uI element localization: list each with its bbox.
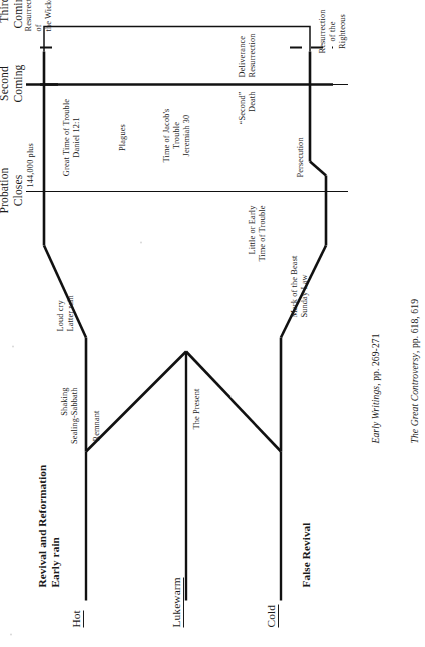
citations: Early Writings, pp. 269-271 The Great Co… (344, 143, 425, 443)
label-lukewarm: Lukewarm (170, 577, 184, 627)
label-persecution: Persecution (296, 87, 306, 177)
label-shaking-sealing-sabbath: ShakingSealing-Sabbath (60, 387, 80, 511)
header-probation-closes: ProbationCloses (0, 147, 25, 233)
label-resurrection-of-the-righteous: Resurrectionof theRighteous (318, 0, 348, 79)
citation-line-2: The Great Controversy, pp. 618, 619 (409, 143, 422, 443)
label-plagues: Plagues (118, 97, 128, 177)
label-remnant: Remnant (92, 371, 102, 441)
label-cold: Cold (265, 604, 279, 627)
header-third-coming: ThirdComing (0, 0, 25, 47)
label-resurrection-of-the-wicked: Resurrectionofthe Wicked (24, 0, 54, 31)
third-coming-bracket-path (44, 26, 310, 51)
citation-1-pages: , pp. 269-271 (370, 333, 381, 385)
label-the-present: The Present (192, 349, 202, 429)
scan-speck (12, 345, 14, 347)
header-second-coming: SecondComing (0, 43, 25, 123)
scan-speck (10, 633, 12, 635)
citation-2-pages: , pp. 618, 619 (409, 298, 420, 352)
citation-1-title: Early Writings (370, 385, 381, 443)
citation-2-title: The Great Controversy (409, 353, 420, 443)
scan-speck (140, 241, 142, 243)
title-revival-and-reformation: Revival and ReformationEarly rain (36, 367, 63, 587)
title-false-revival: False Revival (300, 447, 313, 587)
label-deliverance-resurrection: DeliveranceResurrection (238, 0, 258, 77)
label-little-or-early-time-of-trouble: Little or EarlyTime of Trouble (248, 205, 268, 329)
label-mark-of-the-beast-sunday-law: Mark of the BeastSunday Law (290, 197, 310, 317)
label-second-death: “Second”Death (238, 91, 258, 169)
scan-speck (230, 395, 232, 397)
label-time-of-jacobs-trouble: Time of Jacob'sTroubleJeremiah 30 (162, 89, 192, 181)
label-hot: Hot (70, 610, 84, 627)
label-144000-plus: 144,000 plus (26, 95, 36, 187)
citation-line-1: Early Writings, pp. 269-271 (370, 143, 383, 443)
label-loud-cry-latter-rain: Loud cryLatter rain (56, 235, 76, 331)
label-great-time-of-trouble: Great Time of TroubleDaniel 12:1 (62, 89, 82, 185)
